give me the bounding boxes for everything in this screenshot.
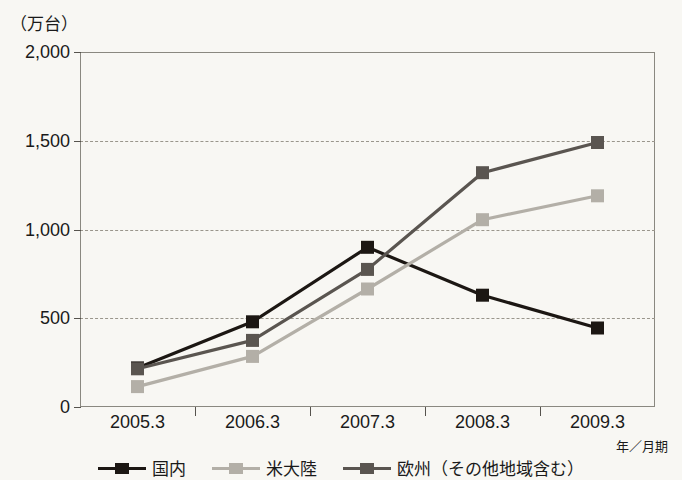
legend-item[interactable]: 欧州（その他地域含む）: [343, 455, 584, 480]
chart-legend: 国内米大陸欧州（その他地域含む）: [0, 455, 682, 480]
gridline: [80, 141, 655, 142]
y-tick-mark: [74, 230, 81, 231]
gridline: [80, 318, 655, 319]
x-tick-label: 2006.3: [225, 412, 280, 433]
y-tick-mark: [74, 141, 81, 142]
x-axis-caption: 年／月期: [616, 436, 668, 455]
y-tick-mark: [74, 407, 81, 408]
x-tick-mark: [540, 407, 541, 416]
legend-item[interactable]: 国内: [98, 455, 186, 480]
x-tick-label: 2007.3: [340, 412, 395, 433]
y-tick-label: 1,500: [25, 130, 70, 151]
y-axis-unit-label: （万台）: [10, 10, 78, 35]
y-tick-label: 2,000: [25, 42, 70, 63]
y-tick-mark: [74, 318, 81, 319]
x-tick-mark: [195, 407, 196, 416]
y-tick-label: 1,000: [25, 219, 70, 240]
x-tick-mark: [425, 407, 426, 416]
y-tick-label: 500: [40, 308, 70, 329]
x-tick-label: 2005.3: [110, 412, 165, 433]
legend-marker-icon: [343, 460, 391, 476]
legend-label: 国内: [152, 455, 186, 480]
legend-marker-icon: [212, 460, 260, 476]
legend-marker-icon: [98, 460, 146, 476]
y-tick-label: 0: [60, 397, 70, 418]
chart-container: （万台） 05001,0001,5002,000 2005.32006.3200…: [0, 0, 682, 480]
x-tick-label: 2008.3: [455, 412, 510, 433]
gridline: [80, 230, 655, 231]
legend-item[interactable]: 米大陸: [212, 455, 317, 480]
legend-label: 欧州（その他地域含む）: [397, 455, 584, 480]
x-tick-mark: [310, 407, 311, 416]
x-tick-label: 2009.3: [570, 412, 625, 433]
y-tick-mark: [74, 52, 81, 53]
legend-label: 米大陸: [266, 455, 317, 480]
